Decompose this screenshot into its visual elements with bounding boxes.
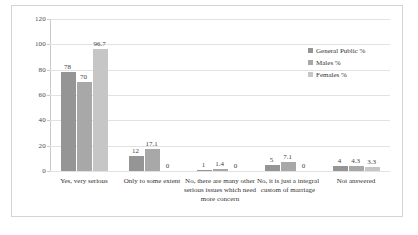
bar: [93, 49, 108, 171]
plot-area: 020406080100120 787096.71217.1011.4057.1…: [50, 19, 390, 171]
bar-value-label: 78: [55, 63, 81, 71]
bar-group: 57.10: [263, 19, 314, 171]
legend-swatch-icon: [308, 72, 313, 77]
bar-group: 787096.7: [59, 19, 110, 171]
bar: [61, 72, 76, 171]
chart-legend: General Public %Males %Females %: [308, 46, 365, 82]
y-axis-tick-label: 80: [39, 66, 46, 74]
bar-value-label: 17.1: [139, 140, 165, 148]
bar-value-label: 3.3: [359, 158, 385, 166]
y-axis-tick-label: 120: [35, 15, 46, 23]
legend-item[interactable]: Females %: [308, 70, 365, 82]
bar-value-label: 96.7: [87, 40, 113, 48]
bar-value-label: 0: [291, 162, 317, 170]
legend-label: General Public %: [316, 47, 365, 55]
y-axis-tick-mark: [47, 146, 50, 147]
bar: [265, 165, 280, 171]
bar: [333, 166, 348, 171]
bar: [77, 82, 92, 171]
y-axis-tick-mark: [47, 171, 50, 172]
bar-value-label: 7.1: [275, 153, 301, 161]
bar-value-label: 0: [155, 162, 181, 170]
category-label: Not answered: [314, 177, 398, 186]
legend-label: Males %: [316, 59, 341, 67]
legend-item[interactable]: Males %: [308, 58, 365, 70]
bar-value-label: 0: [223, 162, 249, 170]
y-axis-tick-label: 40: [39, 116, 46, 124]
y-axis-tick-mark: [47, 120, 50, 121]
bar: [349, 166, 364, 171]
legend-item[interactable]: General Public %: [308, 46, 365, 58]
bar: [365, 167, 380, 171]
bar: [129, 156, 144, 171]
y-axis-tick-label: 0: [42, 167, 46, 175]
bar-group: 44.33.3: [331, 19, 382, 171]
y-axis-tick-mark: [47, 19, 50, 20]
y-axis-tick-mark: [47, 44, 50, 45]
legend-swatch-icon: [308, 48, 313, 53]
legend-swatch-icon: [308, 60, 313, 65]
gridline: [50, 171, 390, 172]
y-axis-tick-label: 100: [35, 40, 46, 48]
y-axis-tick-mark: [47, 95, 50, 96]
chart-frame: 020406080100120 787096.71217.1011.4057.1…: [11, 5, 403, 217]
y-axis-tick-label: 20: [39, 142, 46, 150]
legend-label: Females %: [316, 71, 347, 79]
bar: [197, 170, 212, 171]
bar-group: 11.40: [195, 19, 246, 171]
bar-group: 1217.10: [127, 19, 178, 171]
y-axis-tick-label: 60: [39, 91, 46, 99]
y-axis-tick-mark: [47, 70, 50, 71]
